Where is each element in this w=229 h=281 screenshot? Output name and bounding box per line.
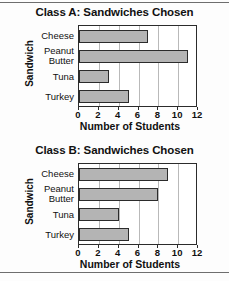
chart-a-bar-row	[79, 26, 196, 46]
chart-a-x-tick-label: 12	[192, 109, 203, 120]
chart-a-category-labels: Cheese Peanut Butter Tuna Turkey	[28, 25, 76, 107]
chart-a-x-tick-label: 8	[155, 109, 160, 120]
chart-a-x-tick-label: 4	[115, 109, 120, 120]
chart-a-bars	[79, 26, 196, 106]
chart-b-bar-cheese	[79, 168, 168, 181]
chart-a-bar-row	[79, 66, 196, 86]
chart-b-title: Class B: Sandwiches Chosen	[0, 144, 229, 156]
chart-b-x-tick-label: 10	[172, 247, 183, 258]
chart-b-x-tick-label: 12	[192, 247, 203, 258]
chart-a-bar-tuna	[79, 70, 109, 83]
chart-b-bar-row	[79, 164, 196, 184]
chart-a-category-cheese: Cheese	[28, 25, 76, 46]
chart-b-category-labels: Cheese Peanut Butter Tuna Turkey	[28, 163, 76, 245]
chart-b-bar-row	[79, 224, 196, 244]
chart-b-category-turkey: Turkey	[28, 225, 76, 246]
chart-a-x-axis-title: Number of Students	[40, 120, 220, 132]
chart-class-b: Class B: Sandwiches Chosen Sandwich Chee…	[0, 144, 229, 275]
chart-a-category-turkey: Turkey	[28, 87, 76, 108]
chart-b-bar-tuna	[79, 208, 119, 221]
top-divider-rule	[0, 2, 229, 3]
worksheet-page: Class A: Sandwiches Chosen Sandwich Chee…	[0, 0, 229, 281]
chart-a-bar-row	[79, 46, 196, 66]
chart-b-x-axis-title: Number of Students	[40, 258, 220, 270]
chart-b-bar-turkey	[79, 228, 129, 241]
chart-a-category-peanut-butter: Peanut Butter	[28, 46, 76, 67]
chart-a-title: Class A: Sandwiches Chosen	[0, 6, 229, 18]
chart-b-category-cheese: Cheese	[28, 163, 76, 184]
chart-a-plot-area	[78, 25, 197, 107]
chart-b-x-tick-label: 4	[115, 247, 120, 258]
chart-a-category-peanut-butter-line2: Butter	[49, 56, 74, 66]
chart-b-bars	[79, 164, 196, 244]
chart-a-category-tuna: Tuna	[28, 66, 76, 87]
chart-a-bar-row	[79, 86, 196, 106]
chart-class-a: Class A: Sandwiches Chosen Sandwich Chee…	[0, 6, 229, 137]
chart-b-category-tuna: Tuna	[28, 204, 76, 225]
chart-b-plot-area	[78, 163, 197, 245]
chart-a-bar-cheese	[79, 30, 148, 43]
chart-b-category-peanut-butter: Peanut Butter	[28, 184, 76, 205]
chart-b-x-tick-label: 2	[95, 247, 100, 258]
chart-b-x-tick-label: 6	[135, 247, 140, 258]
chart-b-bar-peanut-butter	[79, 188, 158, 201]
chart-a-x-tick-label: 2	[95, 109, 100, 120]
chart-b-x-tick-label: 0	[75, 247, 80, 258]
chart-a-bar-turkey	[79, 90, 129, 103]
chart-b-bar-row	[79, 184, 196, 204]
chart-a-bar-peanut-butter	[79, 50, 188, 63]
chart-b-x-tick-label: 8	[155, 247, 160, 258]
chart-a-x-ticks: 024681012	[78, 107, 197, 119]
chart-a-x-tick-label: 10	[172, 109, 183, 120]
chart-b-bar-row	[79, 204, 196, 224]
chart-a-x-tick-label: 0	[75, 109, 80, 120]
chart-b-category-peanut-butter-line2: Butter	[49, 194, 74, 204]
chart-a-x-tick-label: 6	[135, 109, 140, 120]
chart-b-x-ticks: 024681012	[78, 245, 197, 257]
